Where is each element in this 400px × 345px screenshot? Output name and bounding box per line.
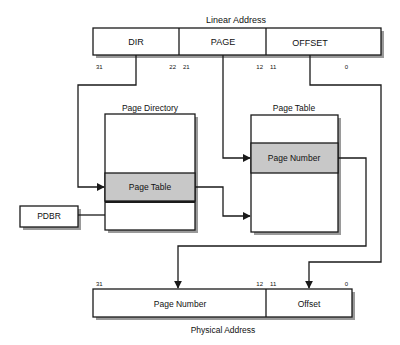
bit-31: 31 [96, 64, 103, 70]
paging-diagram: Linear Address DIR PAGE OFFSET 31 22 21 … [0, 0, 400, 345]
phys-bit-0: 0 [345, 281, 349, 287]
field-offset: OFFSET [292, 38, 328, 48]
bit-11: 11 [270, 64, 277, 70]
pdbr: PDBR [20, 206, 81, 230]
page-directory: Page Directory Page Table [105, 103, 198, 233]
field-dir: DIR [128, 37, 144, 47]
page-directory-box [105, 114, 195, 230]
page-table: Page Table Page Number [251, 103, 341, 235]
pdbr-label: PDBR [37, 211, 61, 221]
bit-12: 12 [256, 64, 263, 70]
linear-address-title: Linear Address [206, 15, 267, 25]
physical-address: Page Number Offset 31 12 11 0 Physical A… [93, 281, 355, 335]
arrow-page-directory-to-page-table [195, 187, 250, 216]
physical-address-title: Physical Address [191, 325, 256, 335]
physical-field-offset: Offset [298, 299, 321, 309]
page-table-entry-label: Page Number [268, 153, 321, 163]
page-directory-entry-label: Page Table [129, 182, 172, 192]
physical-field-page-number: Page Number [154, 299, 207, 309]
phys-bit-12: 12 [256, 281, 263, 287]
bit-22: 22 [169, 64, 176, 70]
page-table-title: Page Table [273, 103, 316, 113]
arrow-page-to-page-table [223, 55, 250, 158]
phys-bit-31: 31 [96, 281, 103, 287]
bit-21: 21 [183, 64, 190, 70]
phys-bit-11: 11 [270, 281, 277, 287]
page-directory-title: Page Directory [122, 103, 179, 113]
bit-0: 0 [345, 64, 349, 70]
field-page: PAGE [211, 37, 235, 47]
